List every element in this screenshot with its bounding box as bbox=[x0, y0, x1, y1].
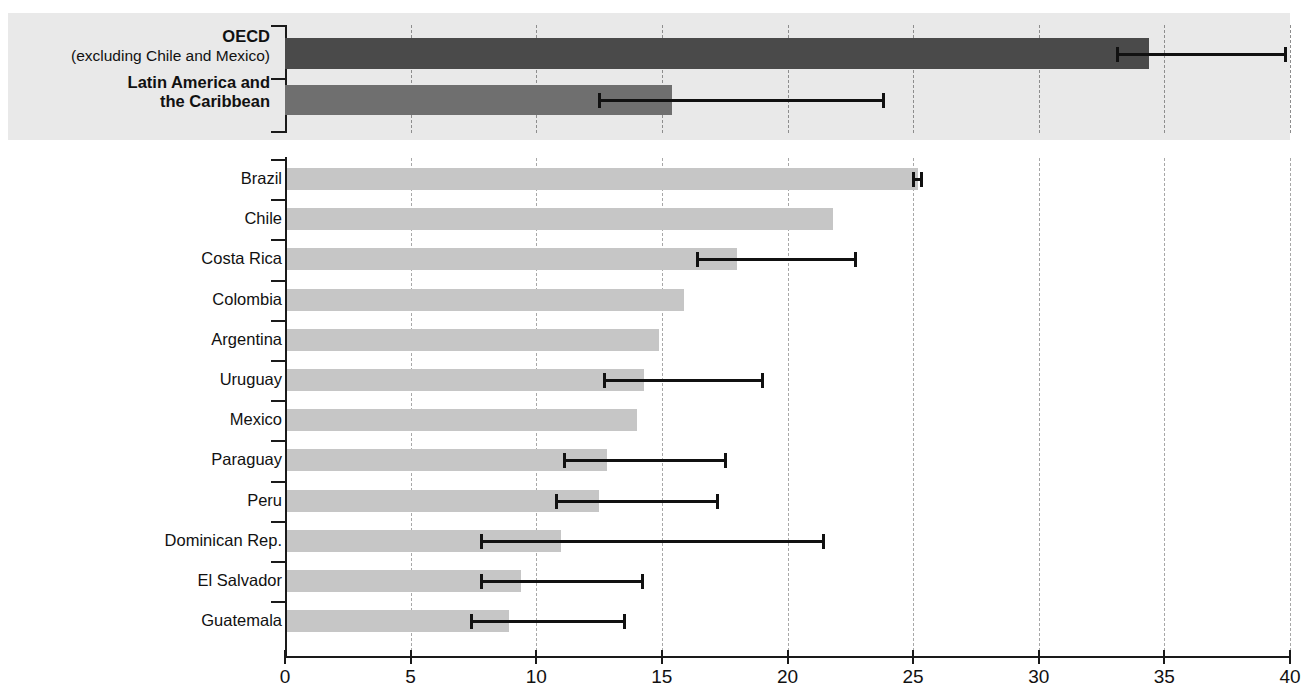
bar-oecd bbox=[285, 38, 1149, 69]
errorbar-cap-el-salvador-low bbox=[480, 574, 483, 589]
x-tick-label-30: 30 bbox=[1009, 666, 1069, 688]
errorbar-cap-costa-rica-high bbox=[854, 252, 857, 267]
errorbar-cap-paraguay-low bbox=[563, 453, 566, 468]
bar-colombia bbox=[285, 289, 684, 311]
category-label-el-salvador: El Salvador bbox=[198, 571, 282, 590]
x-tick-35 bbox=[1163, 650, 1165, 664]
errorbar-cap-oecd-low bbox=[1116, 47, 1119, 62]
aggregate-tick-1 bbox=[271, 78, 287, 80]
bar-costa-rica bbox=[285, 248, 737, 270]
x-tick-5 bbox=[410, 650, 412, 664]
errorbar-cap-dominican-rep-low bbox=[480, 534, 483, 549]
category-label-guatemala: Guatemala bbox=[201, 611, 282, 630]
aggregate-tick-2 bbox=[271, 131, 287, 133]
errorbar-cap-el-salvador-high bbox=[641, 574, 644, 589]
aggregate-label-oecd-sub: (excluding Chile and Mexico) bbox=[10, 46, 270, 65]
category-label-uruguay: Uruguay bbox=[220, 370, 282, 389]
x-tick-label-10: 10 bbox=[506, 666, 566, 688]
errorbar-cap-brazil-high bbox=[920, 172, 923, 187]
gridline-30 bbox=[1039, 158, 1040, 656]
errorbar-cap-costa-rica-low bbox=[696, 252, 699, 267]
category-label-colombia: Colombia bbox=[212, 290, 282, 309]
x-tick-label-40: 40 bbox=[1260, 666, 1305, 688]
x-tick-label-35: 35 bbox=[1134, 666, 1194, 688]
x-tick-10 bbox=[535, 650, 537, 664]
bar-paraguay bbox=[285, 449, 607, 471]
bar-chile bbox=[285, 208, 833, 230]
errorbar-costa-rica bbox=[697, 258, 855, 261]
bar-argentina bbox=[285, 329, 659, 351]
errorbar-uruguay bbox=[604, 379, 762, 382]
errorbar-peru bbox=[556, 500, 717, 503]
x-tick-25 bbox=[912, 650, 914, 664]
errorbar-cap-uruguay-high bbox=[761, 373, 764, 388]
x-tick-15 bbox=[661, 650, 663, 664]
aggregate-label-oecd: OECD (excluding Chile and Mexico) bbox=[10, 27, 270, 65]
errorbar-cap-guatemala-low bbox=[470, 614, 473, 629]
x-tick-label-25: 25 bbox=[883, 666, 943, 688]
x-tick-label-5: 5 bbox=[381, 666, 441, 688]
x-tick-30 bbox=[1038, 650, 1040, 664]
category-label-paraguay: Paraguay bbox=[211, 450, 282, 469]
errorbar-lac bbox=[599, 99, 883, 102]
category-label-argentina: Argentina bbox=[211, 330, 282, 349]
category-label-chile: Chile bbox=[244, 209, 282, 228]
x-tick-20 bbox=[787, 650, 789, 664]
x-tick-label-15: 15 bbox=[632, 666, 692, 688]
errorbar-cap-lac-low bbox=[598, 93, 601, 108]
errorbar-dominican-rep bbox=[481, 540, 823, 543]
category-label-mexico: Mexico bbox=[230, 410, 282, 429]
errorbar-paraguay bbox=[564, 459, 725, 462]
category-label-brazil: Brazil bbox=[241, 169, 282, 188]
errorbar-oecd bbox=[1117, 53, 1285, 56]
aggregate-tick-0 bbox=[271, 25, 287, 27]
errorbar-cap-brazil-low bbox=[912, 172, 915, 187]
aggregate-label-lac: Latin America and the Caribbean bbox=[10, 73, 270, 111]
x-tick-label-20: 20 bbox=[758, 666, 818, 688]
errorbar-cap-oecd-high bbox=[1284, 47, 1287, 62]
bar-mexico bbox=[285, 409, 637, 431]
category-label-dominican-rep: Dominican Rep. bbox=[165, 531, 282, 550]
category-label-costa-rica: Costa Rica bbox=[201, 249, 282, 268]
bar-brazil bbox=[285, 168, 918, 190]
category-label-peru: Peru bbox=[247, 491, 282, 510]
errorbar-guatemala bbox=[471, 620, 624, 623]
country-panel: BrazilChileCosta RicaColombiaArgentinaUr… bbox=[0, 150, 1298, 690]
y-axis-line bbox=[285, 157, 287, 657]
x-tick-40 bbox=[1289, 650, 1291, 664]
gridline-15 bbox=[662, 158, 663, 656]
errorbar-cap-uruguay-low bbox=[603, 373, 606, 388]
aggregate-panel-labels: OECD (excluding Chile and Mexico) Latin … bbox=[8, 13, 278, 140]
aggregate-label-oecd-main: OECD bbox=[10, 27, 270, 46]
gridline-40 bbox=[1290, 158, 1291, 656]
errorbar-cap-peru-high bbox=[716, 494, 719, 509]
aggregate-label-lac-sub: the Caribbean bbox=[10, 92, 270, 111]
x-tick-label-0: 0 bbox=[255, 666, 315, 688]
errorbar-el-salvador bbox=[481, 580, 642, 583]
errorbar-cap-paraguay-high bbox=[724, 453, 727, 468]
x-tick-0 bbox=[284, 650, 286, 664]
bar-peru bbox=[285, 490, 599, 512]
gridline-25 bbox=[913, 158, 914, 656]
errorbar-cap-guatemala-high bbox=[623, 614, 626, 629]
gridline-20 bbox=[788, 158, 789, 656]
errorbar-cap-lac-high bbox=[882, 93, 885, 108]
gridline-35 bbox=[1164, 158, 1165, 656]
gridline-40 bbox=[1290, 25, 1291, 133]
errorbar-cap-dominican-rep-high bbox=[822, 534, 825, 549]
aggregate-label-lac-main: Latin America and bbox=[10, 73, 270, 92]
errorbar-cap-peru-low bbox=[555, 494, 558, 509]
gridline-35 bbox=[1164, 25, 1165, 133]
bar-uruguay bbox=[285, 369, 644, 391]
